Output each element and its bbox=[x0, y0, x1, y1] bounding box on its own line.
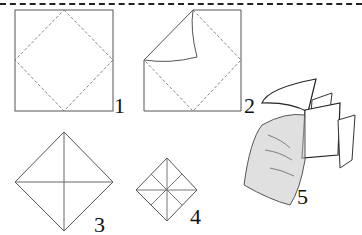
step-number-3: 3 bbox=[94, 214, 105, 235]
step-number-1: 1 bbox=[114, 95, 125, 117]
step-number-4: 4 bbox=[190, 206, 201, 228]
step-4-figure bbox=[136, 158, 197, 221]
step-2-figure bbox=[144, 10, 241, 111]
step-1-figure bbox=[15, 10, 113, 111]
step-number-5: 5 bbox=[297, 186, 308, 208]
step-number-2: 2 bbox=[244, 95, 255, 117]
